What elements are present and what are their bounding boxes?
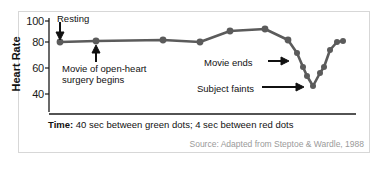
annotation-movie-start-line1: Movie of open-heart	[62, 63, 147, 74]
plot-area: Heart Rate 100 80 60 40	[0, 0, 388, 169]
annotation-subject-faints: Subject faints	[197, 83, 254, 94]
data-point-green-5	[262, 26, 269, 33]
data-point-red-12	[321, 64, 327, 70]
movie-start-arrow-head	[92, 45, 100, 53]
data-point-red-11	[317, 70, 323, 76]
data-point-red-14	[334, 39, 340, 45]
annotation-resting: Resting	[57, 13, 89, 24]
resting-arrow-head	[56, 32, 64, 40]
source-note: Source: Adapted from Steptoe & Wardle, 1…	[189, 139, 364, 149]
movie-ends-arrow-head	[281, 57, 289, 65]
data-point-red-9	[304, 73, 310, 79]
heart-rate-figure: Heart Rate 100 80 60 40	[0, 0, 388, 169]
time-caption-label: Time:	[48, 119, 73, 130]
annotation-movie-ends: Movie ends	[204, 57, 253, 68]
data-point-red-7	[294, 50, 300, 56]
annotation-movie-start-line2: surgery begins	[62, 74, 147, 85]
annotation-movie-start: Movie of open-heart surgery begins	[62, 63, 147, 85]
data-point-green-6	[285, 37, 292, 44]
data-point-red-13	[327, 47, 333, 53]
data-point-green-3	[197, 39, 204, 46]
data-point-green-1	[93, 38, 100, 45]
faints-arrow-head	[296, 83, 304, 91]
data-point-green-2	[160, 37, 167, 44]
time-caption-text: 40 sec between green dots; 4 sec between…	[73, 119, 293, 130]
time-caption: Time: 40 sec between green dots; 4 sec b…	[48, 119, 293, 130]
data-point-red-8	[300, 64, 306, 70]
data-point-green-4	[227, 28, 234, 35]
data-point-red-10	[310, 83, 316, 89]
data-point-red-15	[340, 38, 346, 44]
